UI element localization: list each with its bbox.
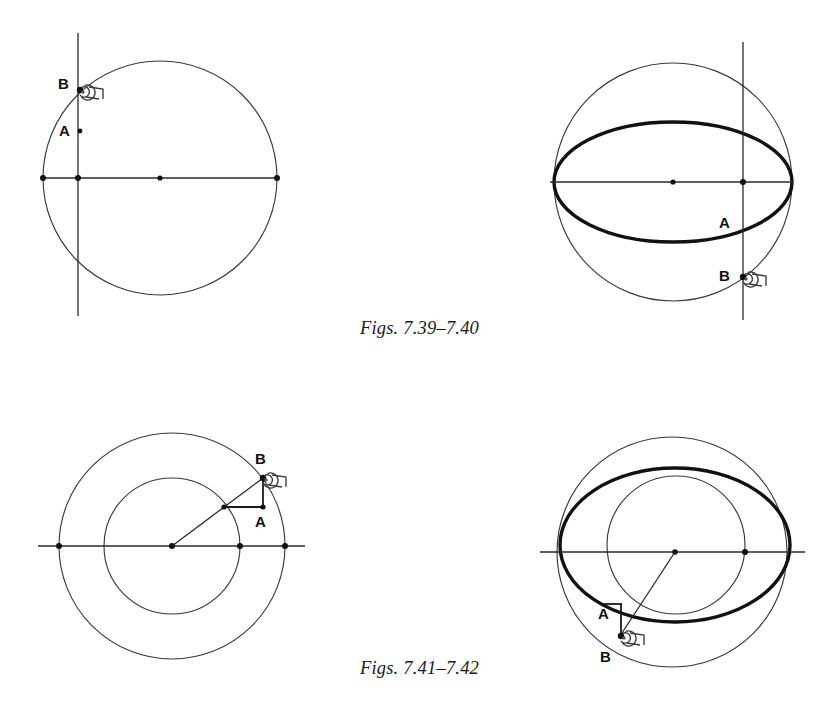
rotation-marker-icon [743, 272, 766, 287]
figure-7-39: A B [0, 0, 320, 340]
label-a: A [59, 122, 70, 139]
label-b: B [255, 450, 266, 467]
label-a: A [598, 605, 609, 622]
axis-dot [56, 543, 62, 549]
center-dot [157, 175, 162, 180]
figure-7-40: A B [500, 0, 839, 340]
label-a: A [719, 214, 730, 231]
caption-figs-7-41-7-42: Figs. 7.41–7.42 [0, 658, 839, 679]
axis-dot [40, 175, 46, 181]
rotation-marker-icon [263, 473, 286, 488]
axis-dot [274, 175, 280, 181]
figure-7-41: A B [0, 400, 340, 680]
axis-dot [740, 179, 746, 185]
figure-7-42: A B [500, 400, 839, 680]
point-a-dot [78, 129, 83, 134]
center-dot [670, 179, 675, 184]
axis-dot [237, 543, 243, 549]
equator-ellipse [560, 468, 790, 622]
radius-line [172, 478, 263, 546]
inner-circle [607, 476, 745, 614]
triangle-vertex-dot [221, 504, 226, 509]
label-a: A [255, 513, 266, 530]
rotation-marker-icon [80, 85, 103, 100]
figure-page: A B [0, 0, 839, 710]
label-b: B [58, 75, 69, 92]
rotation-marker-icon [621, 631, 644, 646]
axis-dot [742, 549, 748, 555]
axis-dot [75, 175, 81, 181]
label-b: B [719, 267, 730, 284]
axis-dot [282, 543, 288, 549]
point-a-dot [260, 504, 265, 509]
caption-figs-7-39-7-40: Figs. 7.39–7.40 [0, 318, 839, 339]
